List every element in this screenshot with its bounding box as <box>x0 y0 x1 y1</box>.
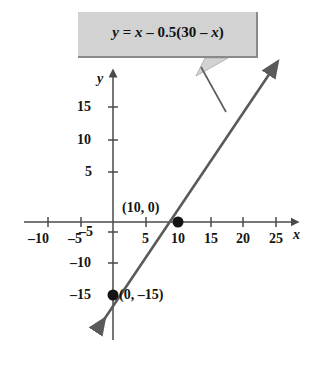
y-tick-label-15: 15 <box>77 100 91 114</box>
y-axis-label: y <box>97 72 103 86</box>
y-tick-label-minus15: –15 <box>70 288 91 302</box>
graph-figure: y = x – 0.5(30 – x) x y 15 10 5 –5 –10 –… <box>0 0 314 367</box>
equation-minus-second: – <box>200 24 208 40</box>
callout-pointer-line <box>201 67 226 112</box>
x-tick-label-15: 15 <box>204 232 218 246</box>
point-label-x-intercept: (10, 0) <box>122 201 159 215</box>
equation-x-first: x <box>135 24 143 40</box>
equation-close-paren: ) <box>219 24 224 40</box>
equation-minus-first: – <box>146 24 154 40</box>
equation-callout-box: y = x – 0.5(30 – x) <box>78 12 258 58</box>
y-tick-label-10: 10 <box>77 133 91 147</box>
x-tick-label-25: 25 <box>269 232 283 246</box>
equation-x-second: x <box>211 24 219 40</box>
point-x-intercept <box>173 217 184 228</box>
x-tick-label-minus5: –5 <box>68 232 82 246</box>
equation-coefficient: 0.5(30 <box>157 24 196 40</box>
point-label-y-intercept: (0, –15) <box>119 288 163 302</box>
x-tick-label-20: 20 <box>236 232 250 246</box>
x-tick-label-10: 10 <box>171 232 185 246</box>
equation-y: y <box>112 24 119 40</box>
equation-equals: = <box>123 24 132 40</box>
y-tick-label-5: 5 <box>85 165 92 179</box>
x-tick-label-minus10: –10 <box>28 232 49 246</box>
callout-tail <box>196 58 228 76</box>
y-tick-label-minus10: –10 <box>70 256 91 270</box>
equation-text: y = x – 0.5(30 – x) <box>78 25 258 40</box>
x-tick-label-5: 5 <box>142 232 149 246</box>
x-axis-label: x <box>293 228 300 242</box>
point-y-intercept <box>108 290 119 301</box>
